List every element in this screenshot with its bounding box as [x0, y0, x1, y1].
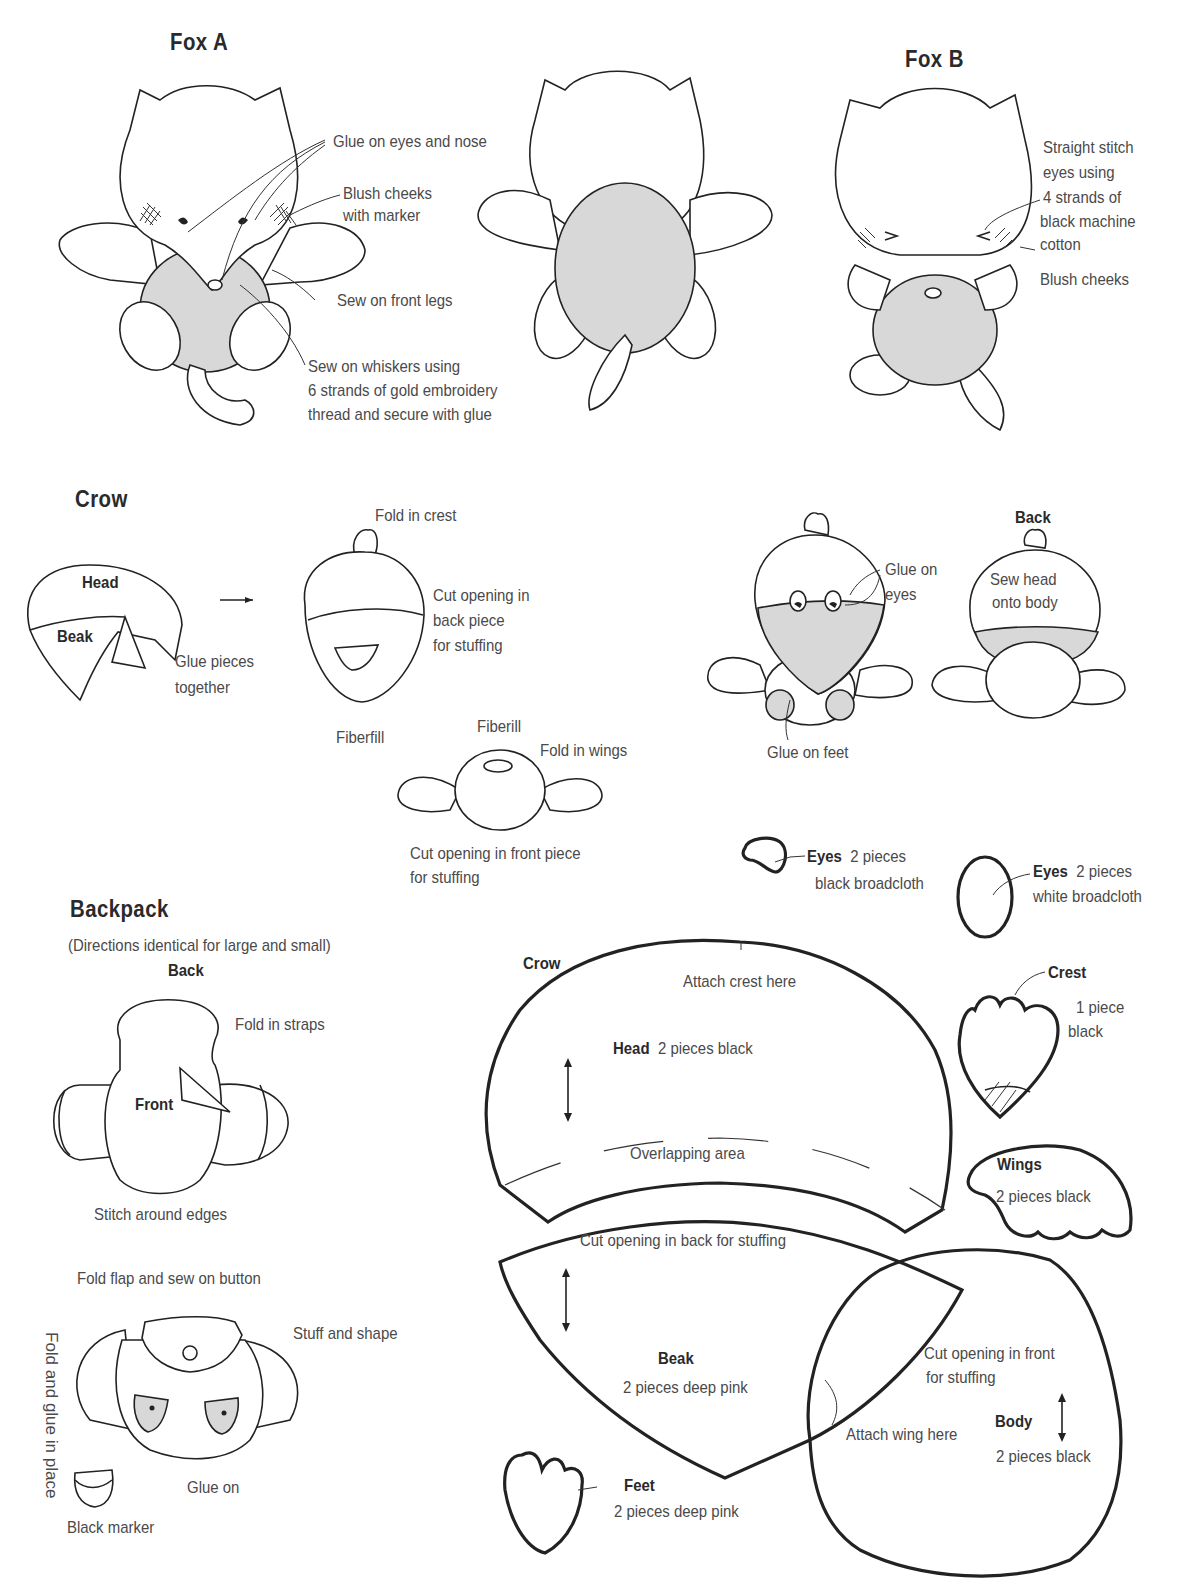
- backpack-label-glue-on: Glue on: [187, 1477, 239, 1499]
- pattern-body-cut-1: Cut opening in front: [924, 1343, 1055, 1365]
- pattern-eyes-white-material: white broadcloth: [1033, 886, 1142, 908]
- pattern-eyes-black-qty: 2 pieces: [850, 847, 906, 866]
- backpack-title: Backpack: [70, 895, 169, 923]
- crow-label-cut-back-1: Cut opening in: [433, 585, 529, 607]
- backpack-label-black-marker: Black marker: [67, 1517, 154, 1539]
- pattern-eyes-white-name: Eyes: [1033, 862, 1068, 881]
- fox-b-label-blush: Blush cheeks: [1040, 269, 1129, 291]
- pattern-crest: [959, 997, 1058, 1117]
- pattern-body-attach-wing: Attach wing here: [846, 1424, 957, 1446]
- crow-back-illustration: [932, 530, 1125, 718]
- crow-label-back: Back: [1015, 507, 1051, 529]
- crow-label-sew-head-1: Sew head: [990, 569, 1057, 591]
- pattern-wings-name: Wings: [997, 1154, 1042, 1176]
- crow-title: Crow: [75, 485, 128, 513]
- pattern-wings-desc: 2 pieces black: [996, 1186, 1091, 1208]
- fox-b-illustration: [836, 89, 1040, 431]
- pattern-head-label: Head 2 pieces black: [613, 1038, 753, 1060]
- crow-label-glue-feet: Glue on feet: [767, 742, 849, 764]
- pattern-eyes-white-label: Eyes 2 pieces: [1033, 861, 1132, 883]
- pattern-eyes-black-material: black broadcloth: [815, 873, 924, 895]
- fox-a-label-whiskers-1: Sew on whiskers using: [308, 356, 460, 378]
- pattern-head-overlap: Overlapping area: [630, 1143, 745, 1165]
- pattern-beak-name: Beak: [658, 1348, 694, 1370]
- backpack-label-fold-straps: Fold in straps: [235, 1014, 325, 1036]
- pattern-crest-qty: 1 piece: [1076, 997, 1124, 1019]
- pattern-eyes-black-name: Eyes: [807, 847, 842, 866]
- pattern-head-attach-crest: Attach crest here: [683, 971, 796, 993]
- backpack-label-front: Front: [135, 1094, 173, 1116]
- pattern-eyes-black-label: Eyes 2 pieces: [807, 846, 906, 868]
- pattern-body-name: Body: [995, 1411, 1032, 1433]
- crow-label-glue-2: together: [175, 677, 230, 699]
- pattern-head-name: Head: [613, 1039, 650, 1058]
- crow-step3-illustration: [398, 750, 602, 830]
- fox-a-label-front-legs: Sew on front legs: [337, 290, 453, 312]
- pattern-body-cut-2: for stuffing: [926, 1367, 996, 1389]
- crow-label-fiberill: Fiberill: [477, 716, 521, 738]
- backpack-label-fold-glue: Fold and glue in place: [40, 1332, 62, 1498]
- pattern-feet-name: Feet: [624, 1475, 655, 1497]
- fox-a-label-whiskers-3: thread and secure with glue: [308, 404, 492, 426]
- pattern-crow-label: Crow: [523, 953, 560, 975]
- crow-label-cut-front-2: for stuffing: [410, 867, 480, 889]
- crow-label-cut-back-3: for stuffing: [433, 635, 503, 657]
- crow-step2-illustration: [304, 530, 424, 702]
- crow-label-fold-crest: Fold in crest: [375, 505, 456, 527]
- crow-label-beak: Beak: [57, 626, 93, 648]
- backpack-subtitle: (Directions identical for large and smal…: [68, 935, 331, 957]
- pattern-eyes-white-qty: 2 pieces: [1076, 862, 1132, 881]
- pattern-crest-material: black: [1068, 1021, 1103, 1043]
- backpack-label-stitch-edges: Stitch around edges: [94, 1204, 227, 1226]
- crow-label-glue-eyes-2: eyes: [885, 584, 917, 606]
- crow-label-head: Head: [82, 572, 119, 594]
- fox-b-title: Fox B: [905, 45, 964, 73]
- pattern-feet-desc: 2 pieces deep pink: [614, 1501, 739, 1523]
- pattern-feet: [505, 1453, 583, 1553]
- fox-b-label-stitch-5: cotton: [1040, 234, 1081, 256]
- fox-a-label-glue-eyes: Glue on eyes and nose: [333, 131, 487, 153]
- crow-label-cut-front-1: Cut opening in front piece: [410, 843, 581, 865]
- pattern-head-desc: 2 pieces black: [658, 1039, 753, 1058]
- fox-b-label-stitch-2: eyes using: [1043, 162, 1115, 184]
- pattern-crest-name: Crest: [1048, 962, 1086, 984]
- crow-label-fold-wings: Fold in wings: [540, 740, 627, 762]
- backpack-label-stuff-shape: Stuff and shape: [293, 1323, 398, 1345]
- fox-a-title: Fox A: [170, 28, 228, 56]
- fox-a-label-blush-2: with marker: [343, 205, 420, 227]
- pattern-body-desc: 2 pieces black: [996, 1446, 1091, 1468]
- pattern-beak-cut: Cut opening in back for stuffing: [580, 1230, 786, 1252]
- fox-b-label-stitch-3: 4 strands of: [1043, 187, 1121, 209]
- crow-label-glue-eyes-1: Glue on: [885, 559, 937, 581]
- crow-label-sew-head-2: onto body: [992, 592, 1058, 614]
- fox-b-label-stitch-4: black machine: [1040, 211, 1136, 233]
- crow-label-fiberfill: Fiberfill: [336, 727, 384, 749]
- fox-a-back-illustration: [478, 71, 772, 410]
- crow-label-cut-back-2: back piece: [433, 610, 505, 632]
- fox-a-label-blush-1: Blush cheeks: [343, 183, 432, 205]
- fox-b-label-stitch-1: Straight stitch: [1043, 137, 1134, 159]
- crow-front-illustration: [708, 513, 912, 740]
- backpack-label-back: Back: [168, 960, 204, 982]
- backpack-label-fold-flap: Fold flap and sew on button: [77, 1268, 261, 1290]
- crow-label-glue-1: Glue pieces: [175, 651, 254, 673]
- pattern-eye-white: [958, 857, 1012, 937]
- pattern-eye-black: [743, 838, 785, 872]
- fox-a-label-whiskers-2: 6 strands of gold embroidery: [308, 380, 498, 402]
- pattern-beak-desc: 2 pieces deep pink: [623, 1377, 748, 1399]
